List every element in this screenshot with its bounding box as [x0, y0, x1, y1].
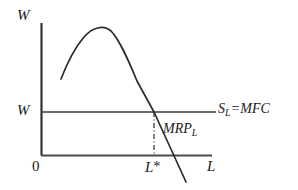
labor-market-diagram: W W 0 L* L SL=MFC MRPL	[0, 0, 298, 190]
equals-sign: =	[230, 101, 240, 116]
supply-symbol: S	[218, 101, 225, 116]
mrp-curve-label: MRPL	[163, 122, 197, 138]
supply-curve-label: SL=MFC	[218, 102, 270, 118]
x-axis-label: L	[207, 159, 215, 174]
mrp-curve	[61, 27, 186, 182]
mfc-symbol: MFC	[240, 101, 270, 116]
wage-level-label: W	[17, 103, 30, 118]
y-axis-label: W	[17, 8, 30, 23]
mrp-subscript: L	[192, 127, 197, 138]
mrp-symbol: MRP	[163, 121, 192, 136]
equilibrium-quantity-label: L*	[145, 159, 160, 175]
origin-label: 0	[32, 159, 40, 174]
asterisk-glyph: *	[153, 158, 160, 174]
